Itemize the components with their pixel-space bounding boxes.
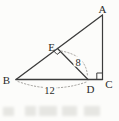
length-label-bd: 12 <box>44 85 55 96</box>
vertex-label-c: C <box>105 78 112 90</box>
vertex-label-e: E <box>48 41 55 53</box>
geometry-figure: A B C D E 8 12 <box>0 0 119 121</box>
print-artifact-band <box>3 106 100 116</box>
artifact-smudge <box>3 107 14 116</box>
right-angle-marker-e <box>54 51 61 54</box>
length-label-ed: 8 <box>75 57 80 68</box>
artifact-smudge <box>84 106 100 116</box>
right-angle-marker-c <box>97 73 103 80</box>
segment-ed <box>58 49 89 80</box>
artifact-smudge <box>39 106 57 116</box>
vertex-label-a: A <box>99 3 107 15</box>
artifact-smudge <box>25 106 36 116</box>
triangle-diagram-svg: A B C D E 8 12 <box>0 0 119 121</box>
artifact-smudge <box>62 106 77 116</box>
side-ab <box>16 15 103 80</box>
vertex-label-b: B <box>3 74 10 86</box>
vertex-label-d: D <box>87 83 95 95</box>
